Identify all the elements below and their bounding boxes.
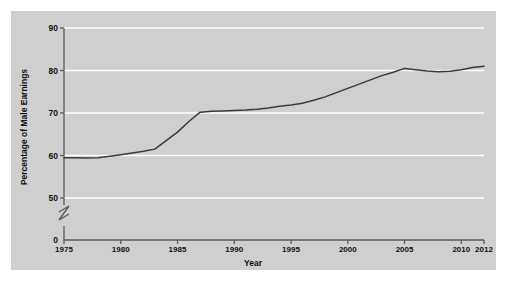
x-tick-label: 2012 bbox=[467, 245, 501, 254]
y-tick-label: 90 bbox=[36, 23, 58, 33]
x-tick-label: 2005 bbox=[388, 245, 422, 254]
chart-canvas bbox=[0, 0, 506, 282]
x-tick-label: 1995 bbox=[274, 245, 308, 254]
x-tick-label: 1975 bbox=[47, 245, 81, 254]
y-tick-label: 60 bbox=[36, 151, 58, 161]
axes-group bbox=[59, 28, 484, 244]
x-tick-label: 1980 bbox=[104, 245, 138, 254]
y-axis-title: Percentage of Male Earnings bbox=[19, 57, 29, 197]
y-tick-label: 0 bbox=[36, 235, 58, 245]
y-axis-break-icon bbox=[59, 206, 69, 220]
y-tick-label: 80 bbox=[36, 66, 58, 76]
x-tick-label: 1985 bbox=[161, 245, 195, 254]
x-tick-label: 1990 bbox=[217, 245, 251, 254]
y-tick-label: 70 bbox=[36, 108, 58, 118]
chart-figure: 05060708090 1975198019851990199520002005… bbox=[0, 0, 506, 282]
y-tick-label: 50 bbox=[36, 193, 58, 203]
x-axis-title: Year bbox=[0, 258, 506, 268]
gridlines-group bbox=[64, 28, 484, 198]
data-series-line bbox=[64, 66, 484, 158]
x-tick-label: 2000 bbox=[331, 245, 365, 254]
